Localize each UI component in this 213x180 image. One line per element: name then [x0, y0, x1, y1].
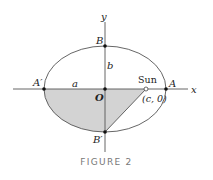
point-O	[103, 87, 107, 91]
label-O: O	[95, 92, 104, 103]
label-focus-c0: (c, 0)	[142, 93, 167, 104]
label-a: a	[72, 78, 78, 89]
label-b: b	[107, 60, 113, 71]
point-A	[164, 87, 168, 91]
y-axis-label: y	[100, 11, 107, 22]
label-A: A	[168, 78, 176, 89]
label-sun: Sun	[138, 74, 157, 85]
label-B-prime: B′	[92, 134, 103, 145]
label-B: B	[95, 35, 103, 46]
figure-caption: FIGURE 2	[0, 157, 213, 167]
ellipse-diagram: y x B b A′ a O Sun A (c, 0) B′	[0, 0, 213, 180]
point-B	[103, 44, 107, 48]
figure-2: y x B b A′ a O Sun A (c, 0) B′ FIGURE 2	[0, 0, 213, 180]
label-A-prime: A′	[32, 77, 43, 88]
point-A-prime	[42, 87, 46, 91]
sun-focus-point	[144, 87, 148, 91]
point-B-prime	[103, 130, 107, 134]
x-axis-label: x	[191, 84, 197, 95]
